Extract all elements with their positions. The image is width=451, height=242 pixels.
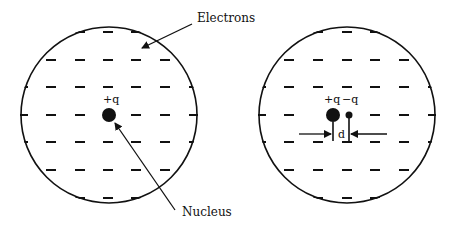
electrons-label: Electrons xyxy=(197,11,255,25)
separation-label: d xyxy=(338,128,345,141)
negative-charge-dot xyxy=(346,112,353,119)
unpolarized-atom: +q Electrons Nucleus xyxy=(20,11,255,219)
nucleus-charge-label: +q xyxy=(103,93,119,106)
negative-charge-label: −q xyxy=(342,93,358,106)
atom-polarization-diagram: +q Electrons Nucleus +q xyxy=(0,0,451,242)
positive-charge-dot xyxy=(326,108,340,122)
polarized-atom: +q −q d xyxy=(258,27,436,203)
nucleus-pointer-arrow xyxy=(115,123,175,210)
nucleus-dot xyxy=(102,108,116,122)
nucleus-caption: Nucleus xyxy=(182,205,232,219)
positive-charge-label: +q xyxy=(324,93,340,106)
